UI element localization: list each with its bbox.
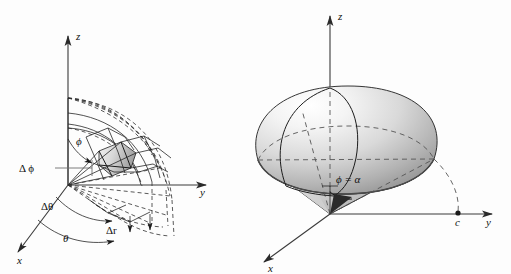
left-z-axis-label: z: [75, 30, 81, 42]
left-phi-label: ϕ: [76, 135, 82, 147]
left-theta-label: θ: [63, 232, 69, 244]
right-x-axis-label: x: [267, 262, 273, 274]
left-x-axis: [18, 185, 68, 252]
left-volume-element-cell: [99, 142, 136, 176]
left-delta-theta-arc: [56, 197, 112, 221]
right-z-axis-label: z: [337, 10, 343, 22]
left-ground-projection: [68, 185, 170, 236]
left-theta-arc: [38, 220, 114, 242]
right-point-c-label: c: [455, 216, 460, 228]
right-y-axis-label: y: [485, 216, 491, 228]
figure-root: z y x: [0, 0, 511, 274]
left-x-axis-label: x: [16, 254, 22, 266]
left-delta-theta-label: Δθ: [41, 200, 53, 212]
left-delta-phi-leader: [55, 160, 92, 176]
right-panel: z y x ϕ = α c: [256, 10, 492, 274]
right-phi-equals-alpha-label: ϕ = α: [336, 173, 361, 185]
left-delta-phi-label: Δ ϕ: [19, 162, 34, 174]
right-x-axis: [264, 214, 330, 262]
left-delta-r-label: Δr: [106, 224, 117, 236]
figure-canvas: z y x: [0, 0, 511, 274]
left-panel: z y x: [16, 30, 206, 266]
right-arc-to-c: [434, 159, 458, 212]
left-y-axis-label: y: [199, 186, 205, 198]
right-point-c-marker: [455, 210, 460, 215]
